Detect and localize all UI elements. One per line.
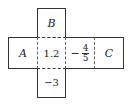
face-center-label: 1.2	[44, 48, 60, 59]
face-center: 1.2	[37, 37, 66, 69]
fraction-denominator: 5	[83, 54, 89, 63]
fraction-numerator: 4	[82, 44, 90, 54]
face-top-label: B	[47, 17, 55, 30]
face-far-right: C	[95, 37, 124, 69]
face-top: B	[37, 8, 66, 38]
face-far-right-label: C	[105, 47, 113, 60]
face-bottom-label: −3	[44, 77, 59, 88]
face-left-label: A	[19, 47, 27, 60]
fraction: 4 5	[82, 44, 90, 63]
face-bottom: −3	[37, 68, 66, 98]
face-right-inner-sign: −	[71, 47, 80, 60]
face-right-inner: − 4 5	[66, 37, 95, 69]
face-left: A	[8, 37, 37, 69]
